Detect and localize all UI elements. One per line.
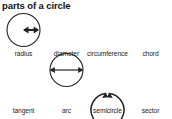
caption-circumference: circumference	[86, 50, 129, 58]
caption-chord: chord	[129, 50, 172, 58]
diagram-title: parts of a circle	[2, 0, 71, 11]
figure-radius	[2, 11, 45, 51]
caption-tangent: tangent	[2, 107, 45, 115]
circle-with-radius-arrow-icon	[2, 11, 45, 51]
caption-sector: sector	[129, 107, 172, 115]
caption-radius: radius	[2, 50, 45, 58]
caption-diameter: diameter	[45, 50, 88, 58]
caption-arc: arc	[45, 107, 88, 115]
caption-semicircle: semicircle	[86, 107, 129, 115]
parts-of-a-circle-diagram: parts of a circle radius diameter circum…	[0, 0, 172, 119]
